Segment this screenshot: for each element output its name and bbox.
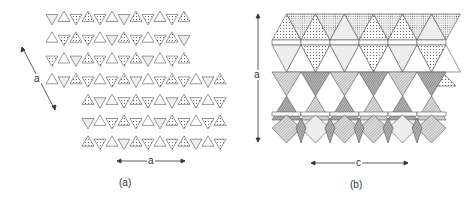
panel-caption-a: (a) [119,178,131,188]
panel-caption-b: (b) [350,180,362,190]
axis-label-a-diagonal: a [33,74,41,84]
polyhedral-framework [272,14,461,143]
crystal-structure-figure [0,0,474,200]
axis-label-a-horizontal: a [147,156,155,166]
axis-label-c-horizontal: c [355,158,362,168]
axis-label-a-vertical: a [253,70,261,80]
kagome-triangle-net [46,11,226,150]
